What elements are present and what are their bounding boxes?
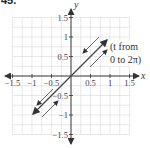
x-tick-label: 1.5 xyxy=(124,78,135,88)
y-tick-label: −1 xyxy=(59,110,68,120)
x-tick-label: −0.5 xyxy=(44,78,59,88)
y-axis-label: y xyxy=(73,0,79,10)
y-tick-label: 1 xyxy=(64,32,68,42)
annotation-line-1: (t from xyxy=(110,41,138,53)
parametric-plot: −1.5 −1 −0.5 0.5 1 1.5 1.5 1 0.5 −0.5 −1… xyxy=(0,0,150,148)
y-tick-label: 1.5 xyxy=(57,13,68,23)
x-tick-label: 0.5 xyxy=(85,78,96,88)
y-tick-label: −1.5 xyxy=(53,130,68,140)
x-tick-label: 1 xyxy=(108,78,112,88)
x-tick-label: −1.5 xyxy=(5,78,20,88)
annotation-line-2: 0 to 2π) xyxy=(110,54,141,66)
x-axis-label: x xyxy=(140,70,146,81)
curve-line xyxy=(71,40,107,76)
x-tick-label: −1 xyxy=(27,78,36,88)
direction-arrow-up-right xyxy=(90,50,107,67)
y-tick-label: 0.5 xyxy=(57,52,68,62)
